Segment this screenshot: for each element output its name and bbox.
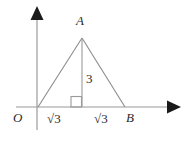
vertex-label-b: B [126, 111, 134, 124]
base-left-segment-label: √3 [47, 112, 61, 125]
geometry-figure: A O B 3 √3 √3 [0, 0, 189, 141]
y-axis-arrowhead-icon [31, 6, 44, 20]
x-axis-arrowhead-icon [167, 101, 181, 114]
radicand-right: 3 [101, 111, 108, 126]
right-angle-marker-icon [71, 97, 82, 108]
altitude-length-label: 3 [86, 72, 93, 85]
base-right-segment-label: √3 [94, 112, 108, 125]
origin-label-o: O [13, 111, 22, 124]
radicand-left: 3 [54, 111, 61, 126]
vertex-label-a: A [76, 14, 84, 27]
